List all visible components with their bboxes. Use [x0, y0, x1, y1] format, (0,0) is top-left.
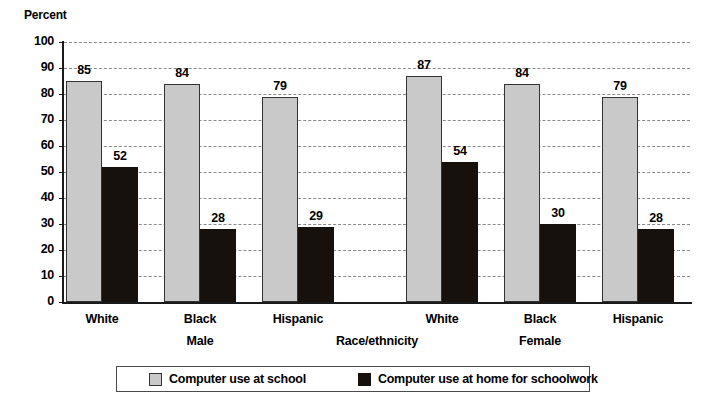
bar-value-label: 79	[596, 79, 644, 93]
bar-home-3	[442, 162, 478, 302]
bar-value-label: 79	[256, 79, 304, 93]
bar-school-1	[164, 84, 200, 302]
y-axis-tick-mark	[59, 146, 64, 147]
gridline	[64, 250, 690, 251]
y-axis-tick-mark	[59, 250, 64, 251]
gridline	[64, 224, 690, 225]
bar-school-4	[504, 84, 540, 302]
category-label-hispanic-male: Hispanic	[238, 312, 358, 326]
gridline	[64, 120, 690, 121]
y-axis-tick-label: 40	[14, 190, 54, 204]
bar-value-label: 52	[96, 149, 144, 163]
gridline	[64, 172, 690, 173]
bar-value-label: 30	[534, 206, 582, 220]
y-axis-tick-mark	[59, 302, 64, 303]
category-label-hispanic-female: Hispanic	[578, 312, 698, 326]
y-axis-tick-mark	[59, 42, 64, 43]
x-axis-title: Race/ethnicity	[267, 334, 487, 348]
bar-home-1	[200, 229, 236, 302]
gridline	[64, 198, 690, 199]
bar-value-label: 29	[292, 209, 340, 223]
plot-area: 855284287929875484307928	[64, 42, 690, 302]
x-axis-line	[62, 302, 692, 304]
chart-legend: Computer use at school Computer use at h…	[116, 366, 590, 392]
y-axis-tick-label: 50	[14, 164, 54, 178]
y-axis-tick-mark	[59, 224, 64, 225]
bar-school-0	[66, 81, 102, 302]
gridline	[64, 42, 690, 43]
y-axis-tick-label: 70	[14, 112, 54, 126]
bar-value-label: 84	[498, 66, 546, 80]
y-axis-tick-label: 0	[14, 294, 54, 308]
y-axis-tick-label: 80	[14, 86, 54, 100]
legend-swatch-home-icon	[358, 373, 371, 386]
legend-item-school: Computer use at school	[149, 372, 306, 386]
gridline	[64, 146, 690, 147]
y-axis-tick-mark	[59, 276, 64, 277]
y-axis-tick-mark	[59, 172, 64, 173]
y-axis-tick-label: 90	[14, 60, 54, 74]
legend-swatch-school-icon	[149, 373, 162, 386]
gridline	[64, 94, 690, 95]
bar-value-label: 28	[194, 211, 242, 225]
y-axis-tick-label: 20	[14, 242, 54, 256]
bar-value-label: 84	[158, 66, 206, 80]
bar-school-3	[406, 76, 442, 302]
bar-value-label: 54	[436, 144, 484, 158]
y-axis-tick-label: 60	[14, 138, 54, 152]
y-axis-title: Percent	[24, 8, 67, 22]
bar-value-label: 87	[400, 58, 448, 72]
bar-chart: Percent 855284287929875484307928 1009080…	[0, 0, 706, 400]
y-axis-tick-label: 100	[14, 34, 54, 48]
bar-value-label: 85	[60, 63, 108, 77]
legend-label-school: Computer use at school	[169, 372, 306, 386]
bar-home-0	[102, 167, 138, 302]
group-label-male: Male	[140, 334, 260, 348]
bar-value-label: 28	[632, 211, 680, 225]
bar-school-2	[262, 97, 298, 302]
bar-school-5	[602, 97, 638, 302]
y-axis-tick-mark	[59, 120, 64, 121]
legend-item-home: Computer use at home for schoolwork	[358, 372, 598, 386]
y-axis-tick-mark	[59, 198, 64, 199]
y-axis-tick-label: 10	[14, 268, 54, 282]
y-axis-tick-label: 30	[14, 216, 54, 230]
y-axis-tick-mark	[59, 94, 64, 95]
gridline	[64, 276, 690, 277]
bar-home-2	[298, 227, 334, 302]
group-label-female: Female	[480, 334, 600, 348]
bar-home-4	[540, 224, 576, 302]
legend-label-home: Computer use at home for schoolwork	[378, 372, 598, 386]
bar-home-5	[638, 229, 674, 302]
